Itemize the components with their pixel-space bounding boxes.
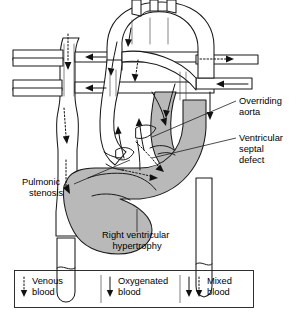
label-pulmonic-stenosis-line2: stenosis [29, 188, 63, 198]
flow-arrowhead-arch-mid [125, 39, 132, 47]
legend-oxygenated-line2: blood [118, 287, 141, 297]
blood-type-legend: Venous blood Oxygenated blood Mixed bloo… [15, 271, 254, 308]
label-vsd-line3: defect [239, 155, 265, 165]
heart-diagram-svg: Overriding aorta Ventricular septal defe… [0, 0, 298, 322]
pulmonary-vein-upper-left-b [13, 58, 63, 66]
label-overriding-aorta-line2: aorta [239, 107, 261, 117]
legend-venous-arrowhead [21, 290, 27, 297]
legend-item-mixed: Mixed blood [186, 276, 235, 297]
left-subclavian-branch [167, 0, 176, 13]
label-overriding-aorta: Overriding aorta [239, 96, 284, 117]
flow-arrowhead-pulmonary-up [115, 126, 122, 134]
pulmonary-vein-lower-left-b [13, 88, 62, 96]
flow-arch-mid [129, 28, 131, 40]
label-rvh-line2: hypertrophy [112, 241, 161, 251]
legend-mixed-line2: blood [207, 287, 230, 297]
heart-anatomy [13, 0, 258, 302]
legend-item-oxygenated: Oxygenated blood [107, 276, 171, 297]
aortic-arch [107, 2, 214, 78]
legend-venous-line2: blood [32, 287, 55, 297]
legend-oxygenated-line1: Oxygenated [118, 276, 168, 286]
tetralogy-of-fallot-figure: Overriding aorta Ventricular septal defe… [0, 0, 298, 322]
legend-mixed-line1: Mixed [207, 276, 232, 286]
flow-arrowhead-mixed-aorta [132, 74, 139, 82]
label-right-ventricular-hypertrophy: Right ventricular hypertrophy [102, 230, 172, 251]
left-carotid-branch [150, 0, 158, 11]
label-ventricular-septal-defect: Ventricular septal defect [239, 133, 286, 165]
label-overriding-aorta-line1: Overriding [239, 96, 282, 106]
label-vsd-line2: septal [239, 144, 264, 154]
label-rvh-line1: Right ventricular [102, 230, 169, 240]
legend-venous-line1: Venous [32, 276, 63, 286]
brachiocephalic-branch [132, 0, 141, 16]
flow-arrowhead-aortic-root [136, 118, 143, 126]
label-vsd-line1: Ventricular [239, 133, 283, 143]
legend-mixed-label: Mixed blood [207, 276, 234, 297]
label-pulmonic-stenosis: Pulmonic stenosis [22, 177, 63, 198]
legend-oxygenated-label: Oxygenated blood [118, 276, 171, 297]
legend-oxygenated-arrowhead [107, 290, 113, 297]
label-pulmonic-stenosis-line1: Pulmonic [22, 177, 61, 187]
inferior-vena-cava [57, 238, 75, 302]
legend-mixed-arrowhead-solid [186, 290, 192, 297]
